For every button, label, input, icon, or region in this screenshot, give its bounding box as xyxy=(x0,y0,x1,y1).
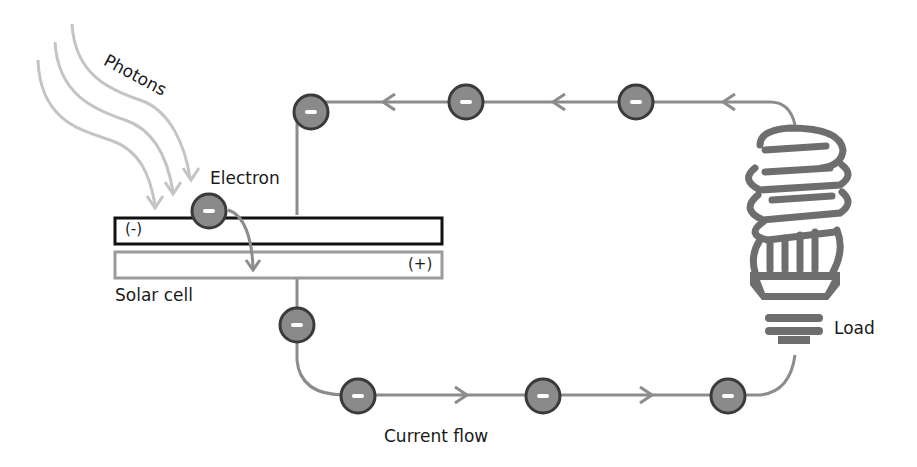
photon-rays xyxy=(38,24,199,208)
current-direction-arrows xyxy=(383,94,735,403)
circuit-wire xyxy=(297,102,795,395)
solar-cell-negative-layer xyxy=(115,218,442,244)
load-label: Load xyxy=(834,318,875,338)
electron-label: Electron xyxy=(210,168,280,188)
bulb-base xyxy=(750,272,840,344)
electrons xyxy=(192,85,745,413)
negative-layer-label: (-) xyxy=(125,220,142,238)
light-bulb-icon xyxy=(749,128,848,272)
solar-cell-positive-layer xyxy=(115,252,442,278)
solar-cell-label: Solar cell xyxy=(115,285,193,305)
positive-layer-label: (+) xyxy=(408,255,432,273)
electron-minus-signs xyxy=(203,100,734,398)
current-flow-label: Current flow xyxy=(384,426,488,446)
